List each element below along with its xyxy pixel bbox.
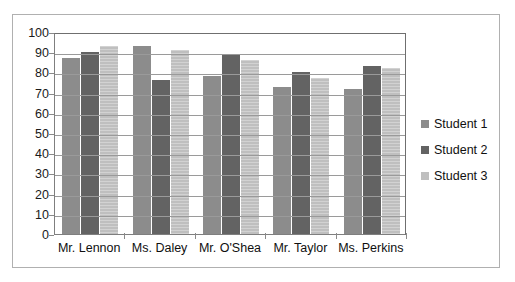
legend-swatch-icon <box>421 120 429 128</box>
legend-item: Student 2 <box>421 137 499 163</box>
gridline <box>55 74 405 75</box>
gridline <box>55 196 405 197</box>
bar <box>363 66 381 234</box>
bar <box>222 54 240 234</box>
x-axis-tick-mark <box>265 233 266 239</box>
chart-legend: Student 1Student 2Student 3 <box>421 111 499 189</box>
legend-item: Student 3 <box>421 163 499 189</box>
x-axis-tick-label: Mr. Lennon <box>58 241 121 255</box>
y-axis-tick-label: 20 <box>35 188 49 201</box>
x-axis-tick-mark <box>124 233 125 239</box>
x-axis-tick-label: Mr. O'Shea <box>199 241 261 255</box>
gridline <box>55 216 405 217</box>
legend-swatch-icon <box>421 146 429 154</box>
gridline <box>55 95 405 96</box>
y-axis-tick-label: 90 <box>35 47 49 60</box>
gridline <box>55 115 405 116</box>
y-axis-tick-label: 60 <box>35 108 49 121</box>
legend-swatch-icon <box>421 172 429 180</box>
bar <box>241 60 259 234</box>
bar <box>344 89 362 234</box>
bar-group <box>203 34 259 234</box>
y-axis-tick-mark <box>49 235 54 236</box>
bar <box>62 58 80 234</box>
legend-item: Student 1 <box>421 111 499 137</box>
x-axis-tick-mark <box>336 233 337 239</box>
bar <box>292 72 310 234</box>
bar <box>81 52 99 234</box>
gridline <box>55 54 405 55</box>
bar <box>152 80 170 234</box>
x-axis-tick-mark <box>406 233 407 239</box>
y-axis-tick-label: 80 <box>35 67 49 80</box>
bar-group <box>344 34 400 234</box>
plot-area <box>54 33 406 235</box>
x-axis-tick-label: Ms. Daley <box>132 241 188 255</box>
y-axis-tick-label: 10 <box>35 209 49 222</box>
y-axis-tick-label: 70 <box>35 87 49 100</box>
legend-label: Student 2 <box>434 143 488 157</box>
y-axis: 0102030405060708090100 <box>13 33 49 235</box>
bar <box>382 68 400 234</box>
chart-frame: 0102030405060708090100 Mr. LennonMs. Dal… <box>12 14 500 268</box>
y-axis-tick-label: 40 <box>35 148 49 161</box>
bar <box>171 50 189 234</box>
bars-layer <box>55 34 405 234</box>
y-axis-tick-label: 0 <box>42 229 49 242</box>
y-axis-tick-label: 100 <box>28 27 49 40</box>
x-axis: Mr. LennonMs. DaleyMr. O'SheaMr. TaylorM… <box>54 239 406 261</box>
x-axis-tick-label: Ms. Perkins <box>338 241 403 255</box>
y-axis-tick-label: 50 <box>35 128 49 141</box>
x-axis-tick-label: Mr. Taylor <box>273 241 327 255</box>
bar <box>311 78 329 234</box>
y-axis-tick-label: 30 <box>35 168 49 181</box>
legend-label: Student 3 <box>434 169 488 183</box>
bar-group <box>62 34 118 234</box>
gridline <box>55 135 405 136</box>
bar <box>273 87 291 234</box>
bar-group <box>133 34 189 234</box>
gridline <box>55 175 405 176</box>
bar-group <box>273 34 329 234</box>
gridline <box>55 155 405 156</box>
legend-label: Student 1 <box>434 117 488 131</box>
x-axis-tick-mark <box>195 233 196 239</box>
